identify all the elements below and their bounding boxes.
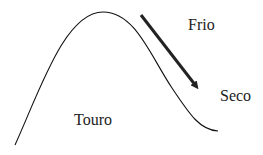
label-frio: Frio [188,17,215,33]
label-touro: Touro [74,112,112,128]
diagram-graphics [0,0,263,155]
diagram-canvas: Frio Seco Touro [0,0,263,155]
label-seco: Seco [220,88,251,104]
